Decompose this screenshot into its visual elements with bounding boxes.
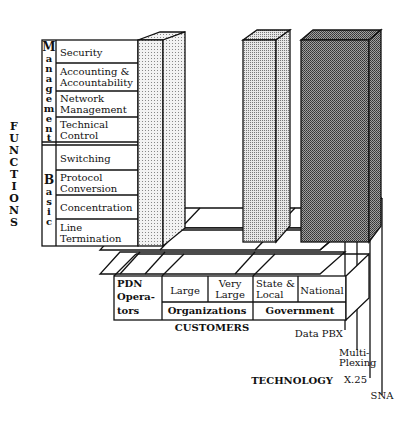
svg-text:Local: Local [256, 289, 283, 300]
function-line-2: Termination [60, 233, 122, 244]
svg-text:Large: Large [170, 285, 200, 296]
svg-text:SNA: SNA [371, 390, 395, 401]
customers-axis-label: CUSTOMERS [175, 322, 249, 333]
svg-text:Opera-: Opera- [117, 291, 155, 302]
technology-axis-label: TECHNOLOGY [251, 375, 334, 386]
function-network-2: Management [60, 104, 127, 115]
svg-text:National: National [300, 285, 344, 296]
bar-state-local [243, 30, 290, 242]
svg-text:Large: Large [215, 289, 245, 300]
bar-national [301, 30, 381, 242]
svg-text:tors: tors [117, 305, 140, 316]
function-accounting-1: Accounting & [59, 66, 130, 77]
svg-text:t: t [47, 132, 52, 143]
function-line-1: Line [60, 222, 82, 233]
svg-text:Government: Government [266, 305, 335, 316]
svg-text:X.25: X.25 [344, 374, 367, 385]
function-technical-2: Control [60, 130, 98, 141]
svg-text:M: M [42, 40, 55, 54]
function-technical-1: Technical [60, 119, 108, 130]
svg-text:Plexing: Plexing [339, 357, 377, 368]
svg-text:PDN: PDN [117, 278, 142, 289]
svg-text:S: S [10, 216, 18, 229]
svg-text:c: c [46, 216, 52, 227]
function-concentration: Concentration [60, 202, 133, 213]
svg-text:State &: State & [256, 278, 295, 289]
svg-text:B: B [44, 173, 54, 187]
function-switching: Switching [60, 153, 111, 164]
functions-axis-label: F U N C T I O N S [9, 120, 19, 229]
svg-text:Data PBX: Data PBX [295, 328, 344, 339]
svg-text:Organizations: Organizations [168, 305, 247, 316]
bar-pdn-operators [138, 32, 185, 246]
function-protocol-1: Protocol [60, 172, 102, 183]
function-protocol-2: Conversion [60, 183, 118, 194]
function-security: Security [60, 47, 103, 58]
function-accounting-2: Accountability [59, 77, 133, 88]
functions-customers-technology-diagram: F U N C T I O N S M a n a g e m e n t B … [0, 0, 416, 425]
function-network-1: Network [60, 93, 105, 104]
technology-labels: Data PBX Multi- Plexing X.25 SNA [295, 328, 395, 401]
svg-text:Very: Very [218, 278, 242, 289]
